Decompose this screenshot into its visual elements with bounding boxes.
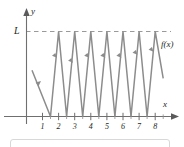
limit-label-L: L: [14, 26, 20, 36]
y-axis-label: y: [31, 7, 35, 16]
x-tick-label-7: 7: [134, 123, 144, 131]
sawtooth-limit-figure: y x L f(x) 1 2 3 4 5 6 7 8: [0, 0, 184, 147]
x-axis-arrowhead: [171, 113, 179, 119]
x-tick-label-1: 1: [38, 123, 48, 131]
x-tick-label-2: 2: [54, 123, 64, 131]
x-tick-label-6: 6: [118, 123, 128, 131]
function-curve: [32, 32, 163, 117]
x-tick-label-3: 3: [70, 123, 80, 131]
caption-box: [10, 139, 170, 147]
x-tick-label-8: 8: [150, 123, 160, 131]
x-tick-label-4: 4: [86, 123, 96, 131]
function-label: f(x): [161, 40, 174, 49]
x-tick-label-5: 5: [102, 123, 112, 131]
x-axis-label: x: [163, 100, 167, 109]
y-axis-arrowhead: [23, 8, 29, 16]
